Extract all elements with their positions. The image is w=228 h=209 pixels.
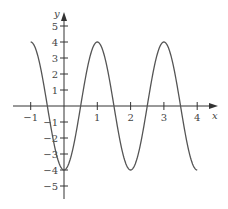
y-axis-label: y [53,8,60,19]
x-tick-label: −1 [23,112,38,123]
x-axis-label: x [212,110,218,121]
x-tick-label: 4 [194,112,200,123]
chart: −1123454321−1−2−3−4−5 x y [0,0,228,209]
y-tick-label: 1 [52,85,58,96]
y-tick-label: −4 [43,165,58,176]
y-tick-label: −2 [43,133,58,144]
y-tick-label: 5 [52,21,58,32]
y-tick-label: 3 [52,53,58,64]
x-tick-label: 2 [127,112,133,123]
y-tick-label: 4 [52,37,58,48]
y-axis-arrow-icon [61,12,67,21]
x-axis-arrow-icon [209,103,218,109]
y-tick-label: 2 [52,69,58,80]
x-tick-label: 1 [94,112,100,123]
y-tick-label: −5 [43,181,58,192]
x-tick-label: 3 [161,112,167,123]
